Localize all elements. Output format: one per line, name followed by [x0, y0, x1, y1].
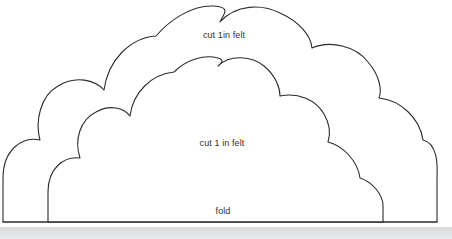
outer-cloud-label: cut 1in felt [203, 30, 245, 41]
bottom-gray-strip [0, 227, 452, 239]
pattern-canvas: cut 1in felt cut 1 in felt fold [0, 0, 452, 239]
fold-label: fold [216, 206, 231, 217]
inner-cloud-label: cut 1 in felt [200, 138, 245, 149]
